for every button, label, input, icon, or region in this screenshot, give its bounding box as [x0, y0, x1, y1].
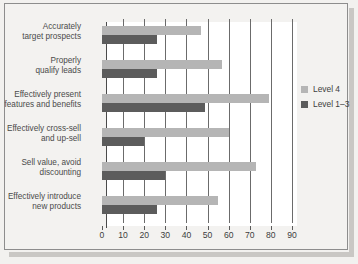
gridline	[271, 19, 272, 223]
legend-label: Level 4	[313, 84, 340, 94]
category-label-line: Properly	[0, 56, 81, 66]
category-label-line: target prospects	[0, 32, 81, 42]
gridline	[208, 19, 209, 223]
figure-shadow-bottom	[9, 252, 354, 257]
category-label-line: Effectively present	[0, 90, 81, 100]
chart-figure: 0102030405060708090 Accuratelytarget pro…	[0, 0, 358, 264]
chart-frame: 0102030405060708090 Accuratelytarget pro…	[4, 3, 348, 250]
category-label-line: Effectively introduce	[0, 192, 81, 202]
category-label: Effectively cross-selland up-sell	[0, 124, 81, 143]
category-label-line: features and benefits	[0, 100, 81, 110]
category-label-line: qualify leads	[0, 66, 81, 76]
chart-legend: Level 4 Level 1–3	[301, 84, 349, 114]
bar-level-1-3	[102, 137, 144, 146]
bar-level-4	[102, 60, 222, 69]
gridline	[229, 19, 230, 223]
legend-item-level-4: Level 4	[301, 84, 349, 94]
figure-shadow-right	[349, 8, 354, 256]
category-label: Accuratelytarget prospects	[0, 22, 81, 41]
bar-level-1-3	[102, 69, 157, 78]
bar-level-4	[102, 94, 269, 103]
bar-level-1-3	[102, 205, 157, 214]
bar-level-4	[102, 26, 201, 35]
category-label: Sell value, avoiddiscounting	[0, 158, 81, 177]
gridline	[292, 19, 293, 223]
bar-level-4	[102, 162, 256, 171]
category-label: Effectively presentfeatures and benefits	[0, 90, 81, 109]
category-label-line: new products	[0, 202, 81, 212]
bar-level-1-3	[102, 35, 157, 44]
category-label: Effectively introducenew products	[0, 192, 81, 211]
category-label-line: Effectively cross-sell	[0, 124, 81, 134]
bar-level-4	[102, 196, 218, 205]
category-label: Properlyqualify leads	[0, 56, 81, 75]
bar-level-1-3	[102, 171, 165, 180]
legend-item-level-1-3: Level 1–3	[301, 99, 349, 109]
bar-level-4	[102, 128, 229, 137]
gridline	[250, 19, 251, 223]
bar-level-1-3	[102, 103, 205, 112]
category-label-line: Accurately	[0, 22, 81, 32]
legend-label: Level 1–3	[313, 99, 349, 109]
category-label-line: Sell value, avoid	[0, 158, 81, 168]
category-label-line: discounting	[0, 168, 81, 178]
x-tick-label: 90	[280, 230, 304, 240]
legend-swatch-icon	[301, 101, 308, 108]
legend-swatch-icon	[301, 86, 308, 93]
category-label-line: and up-sell	[0, 134, 81, 144]
